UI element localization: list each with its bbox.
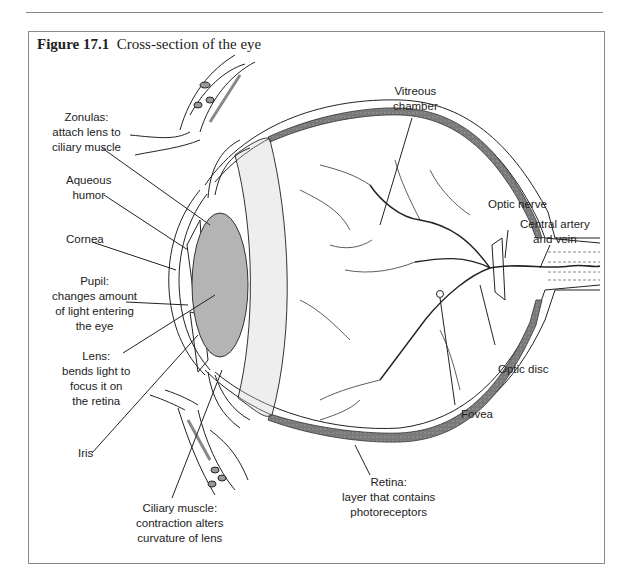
label-line: humor bbox=[66, 188, 111, 203]
label-line: Vitreous bbox=[393, 84, 438, 99]
label-line: Ciliary muscle: bbox=[136, 501, 224, 516]
label-line: attach lens to bbox=[52, 125, 121, 140]
lens bbox=[192, 213, 248, 357]
label-vitreous-chamber: Vitreous chamber bbox=[393, 84, 438, 114]
label-iris: Iris bbox=[78, 446, 93, 461]
label-line: Retina: bbox=[342, 475, 435, 490]
label-line: layer that contains bbox=[342, 490, 435, 505]
label-line: photoreceptors bbox=[342, 505, 435, 520]
label-lens: Lens: bends light to focus it on the ret… bbox=[62, 349, 130, 409]
label-pupil: Pupil: changes amount of light entering … bbox=[52, 274, 137, 334]
label-line: Lens: bbox=[62, 349, 130, 364]
label-line: curvature of lens bbox=[136, 531, 224, 546]
label-fovea: Fovea bbox=[461, 407, 493, 422]
label-line: Optic nerve bbox=[488, 197, 547, 212]
label-ciliary-muscle: Ciliary muscle: contraction alters curva… bbox=[136, 501, 224, 546]
label-zonulas: Zonulas: attach lens to ciliary muscle bbox=[52, 110, 121, 155]
label-line: bends light to bbox=[62, 364, 130, 379]
label-line: contraction alters bbox=[136, 516, 224, 531]
label-line: Optic disc bbox=[498, 362, 549, 377]
label-line: Fovea bbox=[461, 407, 493, 422]
label-optic-nerve: Optic nerve bbox=[488, 197, 547, 212]
retina-band bbox=[268, 108, 542, 238]
label-line: Zonulas: bbox=[52, 110, 121, 125]
label-line: Central artery bbox=[520, 217, 590, 232]
label-line: Iris bbox=[78, 446, 93, 461]
label-line: the eye bbox=[52, 319, 137, 334]
label-line: changes amount bbox=[52, 289, 137, 304]
label-line: of light entering bbox=[52, 304, 137, 319]
label-cornea: Cornea bbox=[66, 232, 104, 247]
label-line: Aqueous bbox=[66, 173, 111, 188]
label-optic-disc: Optic disc bbox=[498, 362, 549, 377]
label-retina: Retina: layer that contains photorecepto… bbox=[342, 475, 435, 520]
label-line: focus it on bbox=[62, 379, 130, 394]
label-aqueous-humor: Aqueous humor bbox=[66, 173, 111, 203]
label-line: chamber bbox=[393, 99, 438, 114]
label-line: Cornea bbox=[66, 232, 104, 247]
label-central-artery-vein: Central artery and vein bbox=[520, 217, 590, 247]
label-line: the retina bbox=[62, 394, 130, 409]
label-line: ciliary muscle bbox=[52, 140, 121, 155]
label-line: and vein bbox=[520, 232, 590, 247]
label-line: Pupil: bbox=[52, 274, 137, 289]
